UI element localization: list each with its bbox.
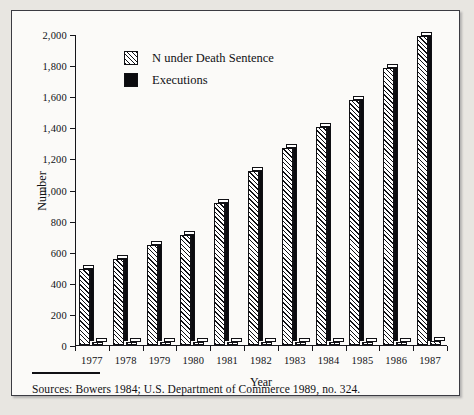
bar <box>261 342 272 346</box>
y-tick-mark <box>70 66 75 67</box>
bar-front-face <box>295 342 306 346</box>
legend-item: N under Death Sentence <box>124 47 274 69</box>
bar <box>113 259 124 345</box>
bar <box>180 235 191 345</box>
bar <box>126 342 137 346</box>
y-tick-mark <box>70 284 75 285</box>
bar-top-face <box>366 338 377 342</box>
x-axis-line <box>75 345 447 346</box>
x-tick-mark <box>447 346 448 351</box>
bar-side-face <box>327 123 331 341</box>
bar-top-face <box>130 338 141 342</box>
bar-top-face <box>83 265 94 269</box>
x-tick-mark <box>143 346 144 351</box>
bar-top-face <box>164 338 175 342</box>
bar-front-face <box>126 342 137 346</box>
x-tick-label: 1984 <box>318 355 340 366</box>
bar-top-face <box>333 338 344 342</box>
y-tick-mark <box>70 191 75 192</box>
x-tick-mark <box>278 346 279 351</box>
bar <box>227 342 238 346</box>
bar-front-face <box>160 342 171 346</box>
bar-side-face <box>124 255 128 341</box>
bar <box>248 171 259 345</box>
x-tick-mark <box>413 346 414 351</box>
x-tick-mark <box>210 346 211 351</box>
legend-item: Executions <box>124 69 274 91</box>
x-tick-label: 1978 <box>115 355 137 366</box>
bar-front-face <box>227 342 238 346</box>
bar <box>396 342 407 346</box>
bar-top-face <box>252 167 263 171</box>
x-tick-mark <box>312 346 313 351</box>
bar-side-face <box>360 96 364 341</box>
bar <box>417 36 428 345</box>
x-tick-mark <box>244 346 245 351</box>
bar <box>214 203 225 345</box>
bar-side-face <box>158 241 162 341</box>
x-tick-mark <box>109 346 110 351</box>
x-tick-label: 1980 <box>182 355 204 366</box>
legend-swatch-solid <box>124 73 138 87</box>
bar-front-face <box>92 342 103 346</box>
y-tick-mark <box>70 222 75 223</box>
bar-top-face <box>320 123 331 127</box>
chart-legend: N under Death SentenceExecutions <box>124 47 274 91</box>
bar-top-face <box>387 64 398 68</box>
bar-top-face <box>353 96 364 100</box>
bar <box>383 68 394 345</box>
bar <box>362 342 373 346</box>
legend-swatch-hatch <box>124 51 138 65</box>
bar <box>282 148 293 345</box>
bar-top-face <box>400 338 411 342</box>
bar-side-face <box>428 32 432 341</box>
y-tick-label: 2,000 <box>42 30 67 41</box>
bar-top-face <box>299 338 310 342</box>
bar-front-face <box>193 342 204 346</box>
figure-background: 02004006008001,0001,2001,4001,6001,8002,… <box>0 0 474 415</box>
x-tick-label: 1987 <box>419 355 441 366</box>
y-axis-line <box>75 35 76 346</box>
y-tick-mark <box>70 97 75 98</box>
y-tick-label: 1,800 <box>42 61 67 72</box>
x-tick-mark <box>75 346 76 351</box>
bar-front-face <box>329 342 340 346</box>
bar <box>316 127 327 345</box>
source-note: Sources: Bowers 1984; U.S. Department of… <box>32 383 360 395</box>
bar-top-face <box>184 231 195 235</box>
x-tick-label: 1979 <box>149 355 171 366</box>
bar-top-face <box>218 199 229 203</box>
bar <box>160 342 171 346</box>
bar-top-face <box>197 338 208 342</box>
x-tick-mark <box>346 346 347 351</box>
y-tick-label: 800 <box>51 216 67 227</box>
bar-side-face <box>293 144 297 341</box>
figure-frame: 02004006008001,0001,2001,4001,6001,8002,… <box>11 10 460 396</box>
y-tick-mark <box>70 315 75 316</box>
y-tick-mark <box>70 159 75 160</box>
bar-front-face <box>79 269 90 345</box>
bar-front-face <box>396 342 407 346</box>
y-tick-label: 0 <box>62 341 67 352</box>
y-tick-label: 1,400 <box>42 123 67 134</box>
bar-top-face <box>117 255 128 259</box>
legend-label: Executions <box>152 73 208 88</box>
bar <box>430 341 441 345</box>
y-tick-label: 1,600 <box>42 92 67 103</box>
bar-front-face <box>362 342 373 346</box>
bar-front-face <box>282 148 293 345</box>
y-axis-title: Number <box>35 171 50 210</box>
bar-top-face <box>421 32 432 36</box>
bar-side-face <box>191 231 195 341</box>
bar-top-face <box>96 338 107 342</box>
bar-front-face <box>214 203 225 345</box>
bar <box>92 342 103 346</box>
x-tick-label: 1986 <box>385 355 407 366</box>
note-divider <box>32 372 100 374</box>
bar-front-face <box>248 171 259 345</box>
bar <box>193 342 204 346</box>
x-tick-label: 1985 <box>352 355 374 366</box>
y-tick-label: 600 <box>51 247 67 258</box>
y-tick-label: 400 <box>51 278 67 289</box>
y-tick-label: 200 <box>51 309 67 320</box>
